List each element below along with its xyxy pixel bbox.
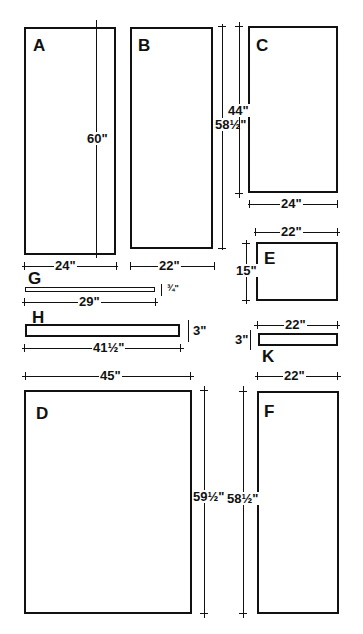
tick bbox=[235, 193, 243, 194]
panel-k-height-dimline bbox=[250, 330, 251, 350]
panel-c-label: C bbox=[256, 37, 268, 54]
panel-g-label: G bbox=[28, 270, 41, 287]
panel-h-height-dimline bbox=[188, 320, 189, 342]
panel-a-label: A bbox=[33, 37, 45, 54]
panel-a-width: 24" bbox=[54, 259, 77, 272]
tick bbox=[24, 262, 25, 270]
panel-a-height: 60" bbox=[86, 132, 109, 145]
tick bbox=[337, 228, 338, 236]
panel-g-height: ¾" bbox=[166, 284, 180, 293]
panel-b-label: B bbox=[138, 37, 150, 54]
tick bbox=[218, 26, 226, 27]
panel-d-label: D bbox=[36, 405, 48, 422]
tick bbox=[24, 344, 25, 352]
panel-k-width: 22" bbox=[284, 318, 307, 331]
panel-k-label: K bbox=[262, 348, 274, 365]
panel-k-height: 3" bbox=[234, 333, 249, 346]
panel-b-height-dimline bbox=[222, 24, 223, 250]
panel-c-height: 44" bbox=[227, 104, 250, 117]
panel-b-width: 22" bbox=[158, 259, 181, 272]
panel-e-width: 22" bbox=[280, 225, 303, 238]
tick bbox=[200, 390, 208, 391]
panel-e-height: 15" bbox=[235, 264, 258, 277]
tick bbox=[214, 262, 215, 270]
panel-b-height: 58½" bbox=[214, 118, 247, 131]
panel-h-width: 41½" bbox=[92, 341, 125, 354]
tick bbox=[180, 344, 181, 352]
panel-g-height-dimline bbox=[161, 284, 162, 296]
tick bbox=[239, 391, 247, 392]
panel-e-label: E bbox=[264, 250, 275, 267]
tick bbox=[25, 372, 26, 380]
panel-d bbox=[24, 390, 192, 614]
tick bbox=[257, 321, 258, 329]
panel-g-width: 29" bbox=[78, 295, 101, 308]
panel-b bbox=[130, 27, 213, 249]
panel-c-width: 24" bbox=[280, 197, 303, 210]
tick bbox=[242, 300, 250, 301]
tick bbox=[92, 27, 100, 28]
panel-k bbox=[258, 333, 338, 346]
panel-f-height: 58½" bbox=[226, 492, 259, 505]
panel-f-label: F bbox=[264, 403, 274, 420]
panel-f-width: 22" bbox=[283, 369, 306, 382]
tick bbox=[116, 262, 117, 270]
tick bbox=[218, 248, 226, 249]
tick bbox=[239, 613, 247, 614]
tick bbox=[255, 228, 256, 236]
tick bbox=[242, 243, 250, 244]
panel-h-height: 3" bbox=[192, 324, 207, 337]
tick bbox=[24, 298, 25, 306]
tick bbox=[155, 298, 156, 306]
tick bbox=[130, 262, 131, 270]
tick bbox=[200, 613, 208, 614]
tick bbox=[190, 372, 191, 380]
panel-d-height: 59½" bbox=[192, 490, 225, 503]
panel-h bbox=[25, 324, 180, 337]
tick bbox=[337, 321, 338, 329]
panel-d-width: 45" bbox=[99, 369, 122, 382]
tick bbox=[257, 372, 258, 380]
tick bbox=[249, 200, 250, 208]
tick bbox=[337, 372, 338, 380]
panel-g bbox=[25, 287, 155, 292]
panel-f bbox=[257, 391, 339, 614]
tick bbox=[337, 200, 338, 208]
tick bbox=[235, 26, 243, 27]
